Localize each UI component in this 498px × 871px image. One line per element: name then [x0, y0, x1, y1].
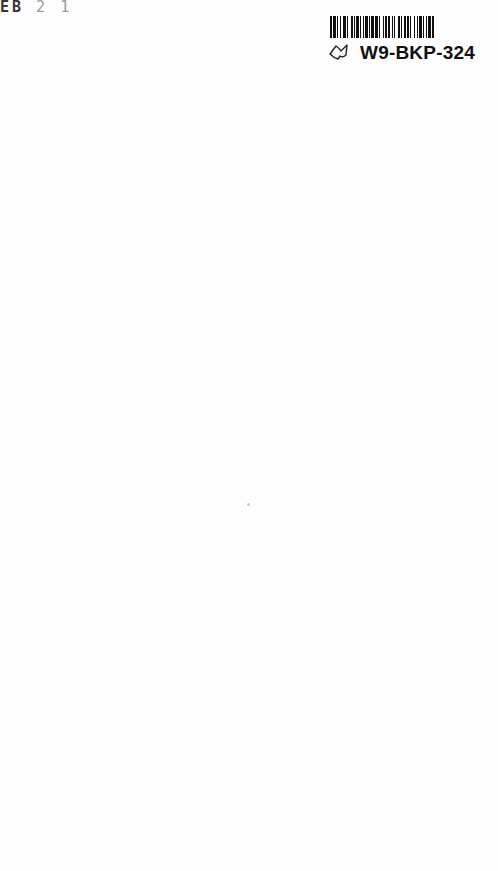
stamp-fragment-rest: 2 1: [24, 0, 72, 16]
barcode-bars: [330, 16, 478, 38]
library-barcode-sticker: W9-BKP-324: [318, 10, 478, 65]
paper-speck: [247, 503, 250, 506]
barcode-bar: [432, 16, 434, 38]
stamp-fragment-prefix: EB: [0, 0, 24, 16]
scanned-page: EB 2 1 W9-BKP-324: [0, 0, 498, 871]
stamp-fragment: EB 2 1: [0, 0, 72, 15]
book-outline-icon: [328, 42, 350, 62]
barcode-label: W9-BKP-324: [360, 42, 475, 64]
